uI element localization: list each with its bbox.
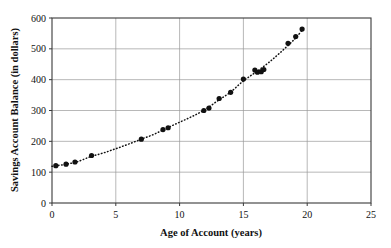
x-axis-title: Age of Account (years) [160, 227, 262, 239]
trend-curve-dotted [52, 30, 302, 166]
data-point [53, 163, 58, 168]
y-tick-label-300: 300 [31, 105, 46, 116]
data-point [206, 105, 211, 110]
data-point [217, 96, 222, 101]
x-tick-label-5: 5 [113, 209, 118, 220]
y-tick-label-600: 600 [31, 13, 46, 24]
data-point [89, 153, 94, 158]
y-tick-label-0: 0 [41, 198, 46, 209]
data-point [241, 76, 246, 81]
data-point [261, 67, 266, 72]
y-tick-label-500: 500 [31, 43, 46, 54]
y-tick-label-100: 100 [31, 167, 46, 178]
x-tick-label-10: 10 [175, 209, 185, 220]
data-point [160, 127, 165, 132]
data-point [228, 90, 233, 95]
data-point [300, 27, 305, 32]
horizontal-gridlines [52, 49, 371, 172]
y-axis-title: Savings Account Balance (in dollars) [9, 28, 21, 192]
data-point [293, 34, 298, 39]
data-point [72, 159, 77, 164]
data-point [285, 41, 290, 46]
savings-account-scatter-chart: 0510152025 0100200300400500600 Age of Ac… [0, 0, 391, 248]
y-axis-tick-labels: 0100200300400500600 [31, 13, 46, 209]
data-point [201, 108, 206, 113]
data-point-group [53, 27, 304, 169]
x-tick-label-25: 25 [366, 209, 376, 220]
x-axis-tick-labels: 0510152025 [50, 209, 377, 220]
x-tick-label-20: 20 [302, 209, 312, 220]
data-point [139, 137, 144, 142]
chart-figure: 0510152025 0100200300400500600 Age of Ac… [0, 0, 391, 248]
x-tick-label-0: 0 [50, 209, 55, 220]
data-point [63, 162, 68, 167]
x-tick-label-15: 15 [238, 209, 248, 220]
y-tick-label-200: 200 [31, 136, 46, 147]
y-tick-label-400: 400 [31, 74, 46, 85]
data-point [166, 125, 171, 130]
